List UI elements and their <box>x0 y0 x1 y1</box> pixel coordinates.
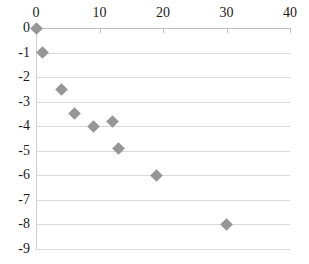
y-tick-label--3: -3 <box>0 95 30 109</box>
scatter-chart: 010203040 0-1-2-3-4-5-6-7-8-9 <box>0 0 309 264</box>
y-tick-label--8: -8 <box>0 217 30 231</box>
x-tick-label-40: 40 <box>270 4 309 21</box>
x-tick-40 <box>290 28 291 33</box>
x-tick-label-10: 10 <box>80 4 120 21</box>
x-tick-label-30: 30 <box>207 4 247 21</box>
gridline-y--9 <box>36 249 290 250</box>
y-tick-label--4: -4 <box>0 119 30 133</box>
data-point <box>87 120 100 133</box>
y-tick-label--6: -6 <box>0 168 30 182</box>
x-tick-label-0: 0 <box>16 4 56 21</box>
data-point <box>150 169 163 182</box>
y-tick-label-0: 0 <box>0 21 30 35</box>
data-point <box>55 83 68 96</box>
data-point <box>112 142 125 155</box>
y-tick-label--1: -1 <box>0 46 30 60</box>
y-tick-label--5: -5 <box>0 144 30 158</box>
data-point <box>106 115 119 128</box>
x-tick-label-20: 20 <box>143 4 183 21</box>
data-point <box>220 218 233 231</box>
data-point <box>30 22 43 35</box>
y-tick-label--9: -9 <box>0 242 30 256</box>
data-point <box>36 46 49 59</box>
y-tick-label--7: -7 <box>0 193 30 207</box>
plot-area <box>36 28 290 249</box>
y-tick-label--2: -2 <box>0 70 30 84</box>
data-point <box>68 108 81 121</box>
